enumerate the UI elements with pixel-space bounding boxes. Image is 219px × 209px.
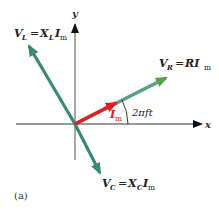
y-axis-label: y xyxy=(71,8,79,19)
svg-text:m: m xyxy=(148,183,155,192)
phasor-diagram: x y 2πft V L = X L I m V R = RI m I m V … xyxy=(0,0,219,209)
svg-text:X: X xyxy=(39,27,49,40)
angle-arc xyxy=(122,100,128,124)
svg-text:L: L xyxy=(48,33,54,42)
svg-text:m: m xyxy=(115,114,122,123)
figure-caption: (a) xyxy=(14,190,28,201)
angle-label: 2πft xyxy=(131,107,154,118)
svg-text:m: m xyxy=(204,63,211,72)
label-im: I m xyxy=(109,108,122,123)
label-vr: V R = RI m xyxy=(159,57,211,72)
svg-text:L: L xyxy=(21,33,27,42)
phasor-vl xyxy=(29,46,75,124)
label-vl: V L = X L I m xyxy=(14,27,67,42)
svg-text:C: C xyxy=(110,183,116,192)
svg-text:X: X xyxy=(127,177,137,190)
x-axis-label: x xyxy=(204,119,212,130)
svg-text:=: = xyxy=(175,57,184,70)
phasor-vc xyxy=(75,124,100,173)
label-vc: V C = X C I m xyxy=(102,177,155,192)
svg-text:R: R xyxy=(166,63,173,72)
svg-text:=: = xyxy=(118,177,127,190)
svg-text:m: m xyxy=(60,33,67,42)
svg-text:=: = xyxy=(30,27,39,40)
svg-text:RI: RI xyxy=(184,57,200,70)
